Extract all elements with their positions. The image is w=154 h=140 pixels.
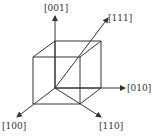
label-010: [010] xyxy=(127,84,151,93)
arrow-100 xyxy=(17,88,55,117)
arrow-111 xyxy=(55,18,108,88)
arrow-110 xyxy=(55,88,101,117)
label-110: [110] xyxy=(99,122,123,131)
label-111: [111] xyxy=(108,14,132,23)
label-100: [100] xyxy=(2,122,26,131)
label-001: [001] xyxy=(44,4,68,13)
